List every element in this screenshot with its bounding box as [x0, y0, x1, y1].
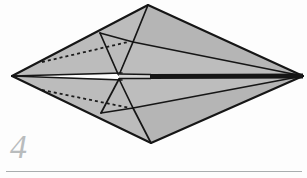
- figure-spine: [119, 74, 303, 79]
- spine-dark-segment: [150, 76, 303, 77]
- horizontal-divider-rule: [6, 171, 302, 172]
- step-number-label: 4: [10, 130, 27, 164]
- origami-figure: [0, 0, 307, 178]
- diagram-page: 4: [0, 0, 307, 178]
